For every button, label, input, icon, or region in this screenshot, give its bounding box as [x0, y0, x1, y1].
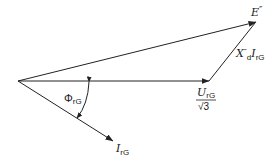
- label-x-d-i-rg: X″dIrG: [235, 47, 265, 62]
- label-e-double-prime: E″: [250, 5, 263, 19]
- vector-i-rg: [18, 81, 113, 141]
- label-i-rg: IrG: [115, 142, 129, 157]
- vector-e-double-prime: [18, 22, 256, 81]
- label-sqrt3: √3: [198, 101, 209, 112]
- label-u-rg: UrG: [197, 86, 215, 100]
- phasor-diagram: E″ X″dIrG UrG √3 ΦrG IrG: [0, 0, 277, 163]
- label-phi-rg: ΦrG: [64, 92, 82, 106]
